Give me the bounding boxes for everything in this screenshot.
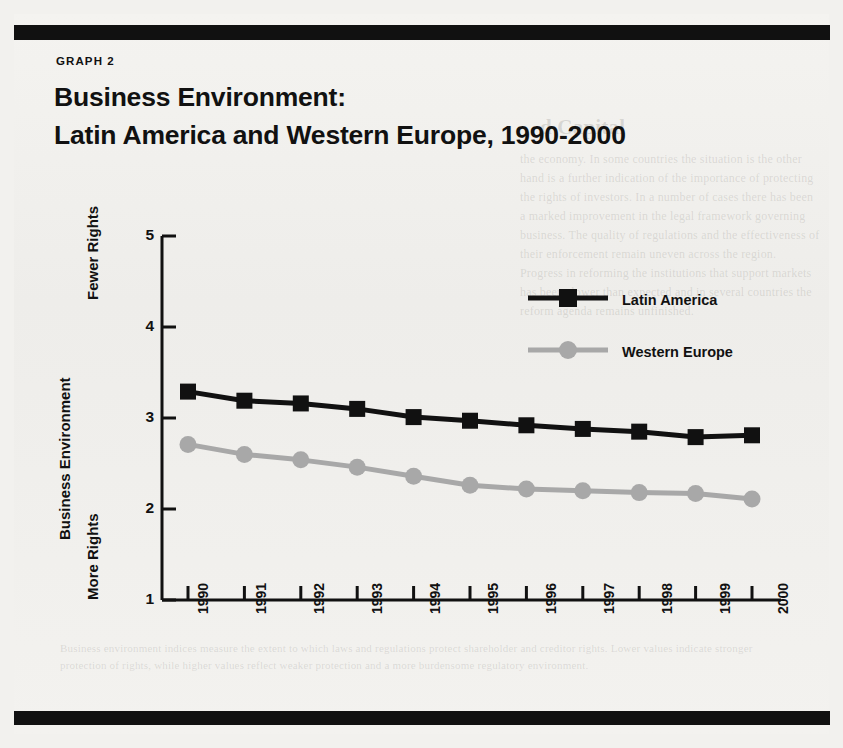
data-point-marker bbox=[293, 395, 309, 411]
data-point-marker bbox=[405, 468, 422, 485]
data-point-marker bbox=[518, 417, 534, 433]
data-point-marker bbox=[631, 424, 647, 440]
legend-swatch-marker-western-europe bbox=[559, 341, 577, 359]
data-point-marker bbox=[631, 484, 648, 501]
data-point-marker bbox=[744, 427, 760, 443]
data-point-marker bbox=[462, 477, 479, 494]
x-axis-ticks bbox=[188, 586, 752, 600]
data-point-marker bbox=[575, 421, 591, 437]
data-point-marker bbox=[180, 384, 196, 400]
data-point-marker bbox=[180, 436, 197, 453]
data-series-group bbox=[180, 384, 761, 508]
data-point-marker bbox=[574, 482, 591, 499]
data-point-marker bbox=[462, 413, 478, 429]
chart-svg bbox=[0, 0, 843, 748]
data-point-marker bbox=[236, 446, 253, 463]
data-point-marker bbox=[688, 429, 704, 445]
legend-swatches bbox=[528, 289, 608, 359]
data-point-marker bbox=[349, 401, 365, 417]
data-point-marker bbox=[406, 409, 422, 425]
series-latin-america bbox=[180, 384, 760, 446]
data-point-marker bbox=[518, 480, 535, 497]
data-point-marker bbox=[349, 459, 366, 476]
series-western-europe bbox=[180, 436, 761, 508]
data-point-marker bbox=[744, 490, 761, 507]
y-axis-ticks bbox=[162, 236, 176, 600]
data-point-marker bbox=[292, 451, 309, 468]
chart-container: Business Environment Fewer Rights More R… bbox=[0, 0, 843, 748]
data-point-marker bbox=[236, 393, 252, 409]
data-point-marker bbox=[687, 485, 704, 502]
legend-swatch-marker-latin-america bbox=[559, 289, 577, 307]
